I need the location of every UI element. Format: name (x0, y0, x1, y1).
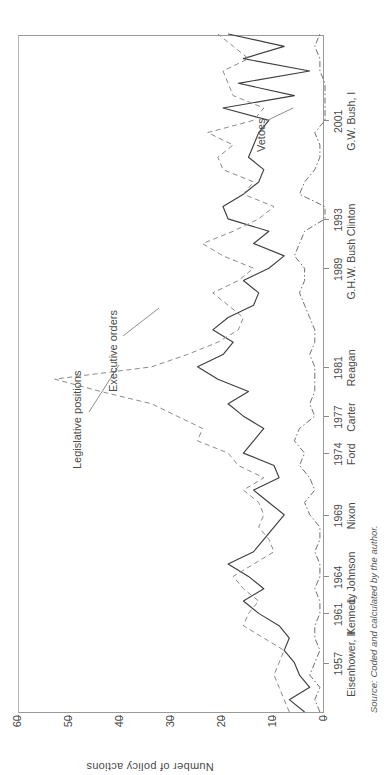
vetoes-leader-line (266, 108, 293, 121)
x-tick-year: 1981 (332, 349, 345, 386)
x-tick-year: 1969 (332, 502, 345, 529)
x-tick-president: Eisenhower, II (345, 631, 358, 697)
y-tick-label: 60 (11, 715, 23, 741)
x-tick-mark (324, 367, 329, 368)
x-tick-label: 1974Ford (332, 442, 357, 465)
x-tick-label: 1957Eisenhower, II (332, 631, 357, 697)
x-tick-president: G.H.W. Bush (345, 239, 358, 300)
x-tick-mark (324, 120, 329, 121)
x-tick-year: 1957 (332, 631, 345, 697)
x-tick-year: 1977 (332, 403, 345, 432)
x-tick-president: Nixon (345, 502, 358, 529)
source-note: Source: Coded and calculated by the auth… (368, 525, 379, 713)
x-tick-mark (324, 663, 329, 664)
y-tick-label: 10 (266, 715, 278, 741)
x-tick-label: 1964L. Johnson (332, 552, 357, 603)
x-tick-mark (324, 416, 329, 417)
x-tick-year: 1964 (332, 552, 345, 603)
legislative-positions-label: Legislative positions (71, 371, 83, 469)
x-tick-mark (324, 515, 329, 516)
annotation-leaders (19, 34, 325, 712)
figure-rotator: Number of policy actions 0102030405060 L… (0, 0, 390, 775)
x-tick-mark (324, 219, 329, 220)
plot-area: Legislative positions Executive orders V… (18, 35, 324, 713)
y-tick-label: 40 (113, 715, 125, 741)
y-tick-label: 0 (317, 715, 329, 741)
x-tick-year: 1974 (332, 442, 345, 465)
x-tick-label: 1977Carter (332, 403, 357, 432)
x-tick-mark (324, 576, 329, 577)
executive-orders-label: Executive orders (107, 310, 119, 392)
y-axis-ticks: 0102030405060 (18, 715, 324, 747)
x-tick-label: 1993Clinton (332, 204, 357, 237)
x-tick-year: 2001 (332, 92, 345, 151)
x-tick-president: Clinton (345, 204, 358, 237)
x-tick-mark (324, 268, 329, 269)
y-tick-label: 50 (62, 715, 74, 741)
executive-leader-line (123, 308, 159, 336)
y-axis-title: Number of policy actions (30, 761, 270, 773)
x-tick-year: 1993 (332, 204, 345, 237)
y-tick-label: 30 (164, 715, 176, 741)
x-tick-president: L. Johnson (345, 552, 358, 603)
x-tick-label: 1981Reagan (332, 349, 357, 386)
x-tick-president: Ford (345, 442, 358, 465)
x-tick-president: G.W. Bush, I (345, 92, 358, 151)
x-tick-mark (324, 453, 329, 454)
x-tick-label: 2001G.W. Bush, I (332, 92, 357, 151)
x-tick-year: 1989 (332, 239, 345, 300)
x-tick-president: Carter (345, 403, 358, 432)
vetoes-label: Vetoes (255, 118, 267, 152)
y-tick-label: 20 (215, 715, 227, 741)
x-tick-president: Reagan (345, 349, 358, 386)
x-tick-mark (324, 613, 329, 614)
x-tick-label: 1969Nixon (332, 502, 357, 529)
x-tick-label: 1989G.H.W. Bush (332, 239, 357, 300)
chart-figure: Number of policy actions 0102030405060 L… (0, 0, 390, 775)
